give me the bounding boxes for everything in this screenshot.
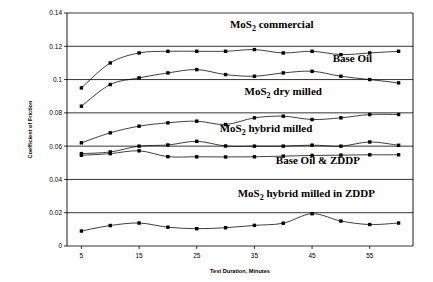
series-annotation-4: Base Oil & ZDDP — [276, 154, 360, 166]
data-point-marker — [137, 149, 140, 152]
data-point-marker — [397, 221, 400, 224]
data-point-marker — [310, 212, 313, 215]
data-point-marker — [166, 50, 169, 53]
data-point-marker — [224, 73, 227, 76]
x-axis-title: Test Duration, Minutes — [210, 268, 270, 274]
data-point-marker — [166, 143, 169, 146]
series-annotation-2: MoS2 dry milled — [245, 85, 322, 100]
data-point-marker — [339, 144, 342, 147]
data-point-marker — [137, 76, 140, 79]
data-point-marker — [109, 152, 112, 155]
y-tick-label: 0 — [58, 242, 62, 249]
y-axis-title: Coefficient of Friction — [27, 100, 33, 158]
data-point-marker — [253, 75, 256, 78]
data-point-marker — [339, 219, 342, 222]
series-line — [81, 141, 398, 153]
data-point-marker — [310, 118, 313, 121]
data-point-marker — [195, 50, 198, 53]
data-point-marker — [166, 71, 169, 74]
data-point-marker — [109, 131, 112, 134]
data-point-marker — [109, 224, 112, 227]
data-point-marker — [166, 121, 169, 124]
data-point-marker — [397, 81, 400, 84]
y-tick-label: 0.08 — [49, 109, 62, 116]
y-tick-label: 0.06 — [49, 143, 62, 150]
data-point-marker — [80, 86, 83, 89]
data-point-marker — [80, 229, 83, 232]
data-point-marker — [368, 113, 371, 116]
data-point-marker — [310, 143, 313, 146]
data-point-marker — [195, 68, 198, 71]
data-point-marker — [397, 153, 400, 156]
series-annotation-3: MoS2 hybrid milled — [220, 122, 313, 137]
series-annotation-1: Base Oil — [333, 52, 372, 64]
x-tick-label: 45 — [308, 252, 316, 259]
data-point-marker — [137, 221, 140, 224]
data-point-marker — [253, 155, 256, 158]
series-1 — [80, 68, 401, 108]
y-tick-label: 0.12 — [49, 43, 62, 50]
data-point-marker — [253, 116, 256, 119]
data-point-marker — [224, 144, 227, 147]
data-series-group — [80, 48, 401, 233]
series-line — [81, 214, 398, 231]
x-tick-label: 35 — [251, 252, 259, 259]
data-point-marker — [80, 141, 83, 144]
data-point-marker — [137, 51, 140, 54]
data-point-marker — [282, 144, 285, 147]
data-point-marker — [368, 153, 371, 156]
data-point-marker — [166, 155, 169, 158]
x-tick-label: 15 — [135, 252, 143, 259]
data-point-marker — [80, 154, 83, 157]
data-point-marker — [339, 116, 342, 119]
data-point-marker — [137, 124, 140, 127]
friction-chart: 00.020.040.060.080.10.120.14 51525354555… — [0, 0, 433, 282]
data-point-marker — [397, 113, 400, 116]
data-point-marker — [282, 222, 285, 225]
chart-plot-area: 00.020.040.060.080.10.120.14 51525354555… — [0, 0, 433, 282]
y-axis-ticks: 00.020.040.060.080.10.120.14 — [49, 9, 67, 249]
data-point-marker — [397, 50, 400, 53]
data-point-marker — [109, 83, 112, 86]
data-point-marker — [224, 50, 227, 53]
data-point-marker — [282, 114, 285, 117]
data-point-marker — [253, 224, 256, 227]
data-point-marker — [224, 155, 227, 158]
x-tick-label: 55 — [366, 252, 374, 259]
data-point-marker — [310, 70, 313, 73]
data-point-marker — [310, 50, 313, 53]
series-5 — [80, 212, 401, 233]
data-point-marker — [195, 140, 198, 143]
data-point-marker — [339, 75, 342, 78]
data-point-marker — [253, 144, 256, 147]
data-point-marker — [368, 78, 371, 81]
data-point-marker — [253, 48, 256, 51]
data-point-marker — [137, 144, 140, 147]
data-point-marker — [397, 144, 400, 147]
x-tick-label: 5 — [80, 252, 84, 259]
y-tick-label: 0.1 — [53, 76, 62, 83]
data-point-marker — [195, 227, 198, 230]
data-point-marker — [368, 223, 371, 226]
y-tick-label: 0.14 — [49, 9, 62, 16]
x-axis-ticks: 51525354555 — [80, 246, 374, 259]
data-point-marker — [224, 226, 227, 229]
x-tick-label: 25 — [193, 252, 201, 259]
series-annotations: MoS2 commercialBase OilMoS2 dry milledMo… — [220, 18, 376, 201]
y-tick-label: 0.04 — [49, 176, 62, 183]
series-annotation-0: MoS2 commercial — [230, 18, 314, 32]
series-annotation-5: MoS2 hybrid milled in ZDDP — [238, 187, 376, 202]
data-point-marker — [195, 155, 198, 158]
data-point-marker — [282, 71, 285, 74]
series-line — [81, 70, 398, 107]
data-point-marker — [166, 225, 169, 228]
data-point-marker — [109, 61, 112, 64]
y-tick-label: 0.02 — [49, 209, 62, 216]
data-point-marker — [195, 119, 198, 122]
data-point-marker — [368, 140, 371, 143]
data-point-marker — [282, 51, 285, 54]
data-point-marker — [80, 105, 83, 108]
